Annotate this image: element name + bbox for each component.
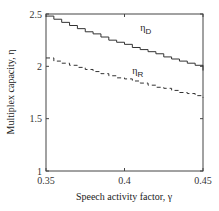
y-tick-label: 2 [37,61,42,72]
annotations: ηDηR [132,22,151,79]
y-tick-label: 1.5 [30,113,43,124]
x-tick-label: 0.45 [194,175,212,186]
x-tick-label: 0.35 [37,175,55,186]
capacity-chart: 0.350.40.4511.522.5 ηDηR Speech activity… [0,0,219,211]
y-tick-label: 2.5 [30,9,43,20]
axis-ticks: 0.350.40.4511.522.5 [30,9,212,187]
series-eta-d-line [46,16,203,70]
series-label: ηR [132,65,143,79]
y-axis-label: Multiplex capacity, η [5,50,16,135]
series-eta-r-line [46,58,203,98]
x-tick-label: 0.4 [118,175,131,186]
plot-frame [46,14,203,171]
series-lines [46,16,203,98]
series-label: ηD [140,22,151,36]
y-tick-label: 1 [37,166,42,177]
x-axis-label: Speech activity factor, γ [76,191,173,202]
